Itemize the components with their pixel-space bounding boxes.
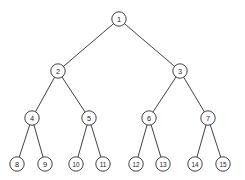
- tree-node-11[interactable]: 11: [96, 157, 110, 171]
- tree-edge-4-9: [34, 125, 43, 157]
- tree-edge-2-4: [35, 77, 54, 111]
- tree-edge-1-2: [63, 24, 113, 67]
- node-label-1: 1: [117, 15, 121, 24]
- node-label-15: 15: [219, 161, 227, 168]
- tree-edge-4-8: [19, 125, 30, 157]
- tree-node-7[interactable]: 7: [201, 111, 215, 125]
- node-label-12: 12: [132, 161, 140, 168]
- node-label-11: 11: [100, 161, 107, 168]
- node-label-5: 5: [87, 114, 91, 123]
- tree-edge-3-6: [153, 77, 176, 112]
- edge-layer: [19, 24, 221, 157]
- node-label-13: 13: [159, 161, 167, 168]
- node-label-3: 3: [178, 67, 182, 76]
- node-label-8: 8: [15, 160, 19, 169]
- node-label-2: 2: [56, 67, 60, 76]
- tree-node-5[interactable]: 5: [82, 111, 96, 125]
- tree-edge-5-10: [78, 125, 87, 157]
- tree-node-3[interactable]: 3: [173, 64, 187, 78]
- tree-edge-2-5: [62, 77, 85, 112]
- tree-node-8[interactable]: 8: [10, 157, 24, 171]
- node-label-6: 6: [147, 114, 151, 123]
- node-label-10: 10: [72, 161, 80, 168]
- tree-edge-6-12: [138, 125, 147, 157]
- tree-node-14[interactable]: 14: [188, 157, 202, 171]
- tree-edge-7-14: [197, 125, 206, 157]
- node-layer: 123456789101112131415: [10, 12, 230, 171]
- tree-node-2[interactable]: 2: [51, 64, 65, 78]
- tree-edge-1-3: [124, 24, 174, 67]
- tree-node-1[interactable]: 1: [112, 12, 126, 26]
- node-label-14: 14: [191, 161, 199, 168]
- binary-tree-diagram: 123456789101112131415: [0, 0, 245, 180]
- tree-node-12[interactable]: 12: [129, 157, 143, 171]
- tree-edge-7-15: [210, 125, 221, 157]
- node-label-9: 9: [43, 160, 47, 169]
- tree-node-10[interactable]: 10: [69, 157, 83, 171]
- tree-canvas: 123456789101112131415: [0, 0, 245, 180]
- tree-node-6[interactable]: 6: [142, 111, 156, 125]
- tree-edge-6-13: [151, 125, 161, 157]
- tree-node-4[interactable]: 4: [25, 111, 39, 125]
- tree-node-13[interactable]: 13: [156, 157, 170, 171]
- tree-node-15[interactable]: 15: [216, 157, 230, 171]
- tree-edge-3-7: [184, 77, 205, 112]
- node-label-7: 7: [206, 114, 210, 123]
- node-label-4: 4: [30, 114, 34, 123]
- tree-node-9[interactable]: 9: [38, 157, 52, 171]
- tree-edge-5-11: [91, 125, 101, 157]
